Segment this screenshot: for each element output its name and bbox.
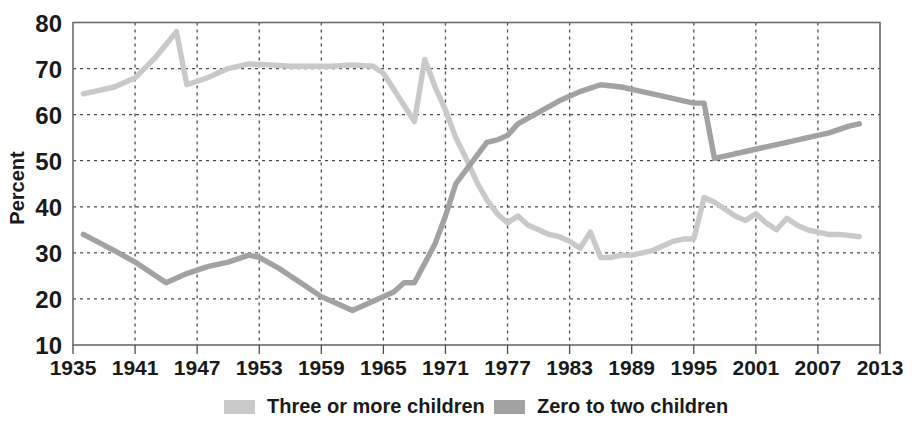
x-axis-tick-label: 1995 <box>670 356 717 379</box>
y-axis-tick-label: 50 <box>35 148 62 175</box>
x-axis-tick-label: 1971 <box>422 356 469 379</box>
x-axis-tick-label: 1941 <box>112 356 159 379</box>
y-axis-tick-label: 10 <box>35 332 62 359</box>
x-axis-tick-label: 1983 <box>546 356 593 379</box>
y-axis-tick-label: 30 <box>35 240 62 267</box>
x-axis-tick-label: 1953 <box>236 356 283 379</box>
x-axis-tick-label: 1989 <box>608 356 655 379</box>
x-axis-tick-label: 2001 <box>732 356 779 379</box>
chart-canvas: 1020304050607080 19351941194719531959196… <box>0 0 912 441</box>
x-axis-tick-label: 2007 <box>795 356 842 379</box>
x-axis-tick-label: 1935 <box>50 356 97 379</box>
y-axis-tick-label: 70 <box>35 56 62 83</box>
line-chart-figure: 1020304050607080 19351941194719531959196… <box>0 0 912 441</box>
x-axis-tick-label: 1965 <box>360 356 407 379</box>
y-axis-tick-label: 80 <box>35 10 62 37</box>
legend-label: Zero to two children <box>537 395 728 417</box>
y-axis-tick-label: 60 <box>35 102 62 129</box>
x-axis-tick-label: 2013 <box>857 356 904 379</box>
y-axis-tick-label: 20 <box>35 286 62 313</box>
x-axis-tick-label: 1947 <box>174 356 221 379</box>
legend-swatch <box>224 400 255 414</box>
x-axis-tick-label: 1959 <box>298 356 345 379</box>
y-axis-tick-label: 40 <box>35 194 62 221</box>
y-axis-title: Percent <box>6 151 28 225</box>
legend-swatch <box>494 400 525 414</box>
legend-label: Three or more children <box>267 395 485 417</box>
x-axis-tick-label: 1977 <box>484 356 531 379</box>
chart-legend: Three or more childrenZero to two childr… <box>224 395 728 417</box>
